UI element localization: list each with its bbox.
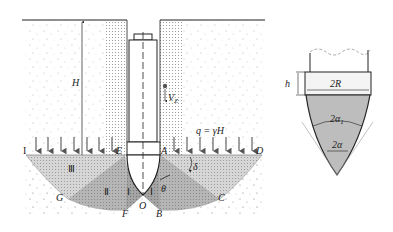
inner-angle-label: 2α [332,139,343,150]
penetration-diagram: H VZ q = γH I E A D G F O B C Ⅲ Ⅱ Ⅰ Ⅰ δ … [0,0,393,232]
depth-label: H [71,77,80,88]
point-B-label: B [156,208,162,219]
detail-break-line [310,49,370,55]
zone-III-label: Ⅲ [68,163,75,174]
zone-II-label: Ⅱ [104,186,109,197]
cone-detail-figure: h 2R 2α1 2α [285,49,373,175]
pile-collar [127,142,160,155]
delta-label: δ [193,161,198,172]
height-label: h [285,78,290,89]
particle-marker [163,84,167,88]
width-label: 2R [330,78,341,89]
zone-I-right-label: Ⅰ [150,186,153,197]
borehole-wall-right [160,20,182,155]
point-I-label: I [23,145,26,156]
point-E-label: E [115,145,122,156]
detail-cone [306,95,370,175]
point-A-label: A [160,145,168,156]
point-G-label: G [56,192,63,203]
point-F-label: F [121,208,129,219]
point-O-label: O [139,200,146,211]
theta-label: θ [161,183,166,194]
surcharge-label: q = γH [196,125,225,136]
borehole-wall-left [105,20,127,155]
point-C-label: C [218,192,225,203]
zone-I-left-label: Ⅰ [127,186,130,197]
point-D-label: D [255,145,264,156]
main-figure: H VZ q = γH I E A D G F O B C Ⅲ Ⅱ Ⅰ Ⅰ δ … [22,20,265,219]
